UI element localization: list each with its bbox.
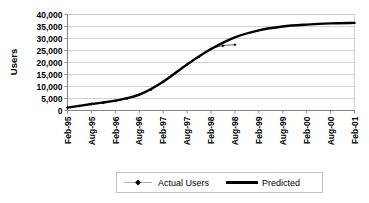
x-tick-label: Feb-97 xyxy=(158,116,168,144)
x-tick-label: Feb-98 xyxy=(206,116,216,144)
legend-label-predicted: Predicted xyxy=(262,178,300,188)
y-tick-label: 30,000 xyxy=(37,34,63,44)
x-tick-label: Feb-96 xyxy=(111,116,121,144)
x-tick-label: Feb-00 xyxy=(302,116,312,144)
y-tick-label: 15,000 xyxy=(37,70,63,80)
x-tick-label: Aug-95 xyxy=(87,116,97,145)
x-tick-label: Aug-99 xyxy=(278,116,288,145)
x-tick-label: Feb-99 xyxy=(254,116,264,144)
x-tick-label: Feb-95 xyxy=(63,116,73,144)
y-tick-label: 0 xyxy=(58,106,63,116)
chart-legend: Actual Users Predicted xyxy=(117,173,323,193)
y-tick-label: 35,000 xyxy=(37,22,63,32)
y-tick-label: 5,000 xyxy=(41,94,63,104)
y-tick-label: 40,000 xyxy=(37,10,63,20)
x-tick-label: Aug-97 xyxy=(182,116,192,145)
x-tick-label: Aug-98 xyxy=(230,116,240,145)
y-tick-label: 20,000 xyxy=(37,58,63,68)
y-tick-label: 10,000 xyxy=(37,82,63,92)
legend-label-actual-users: Actual Users xyxy=(158,178,210,188)
users-growth-line-chart: 05,00010,00015,00020,00025,00030,00035,0… xyxy=(0,0,369,203)
chart-container: 05,00010,00015,00020,00025,00030,00035,0… xyxy=(0,0,369,203)
x-tick-label: Feb-01 xyxy=(350,116,360,144)
y-tick-label: 25,000 xyxy=(37,46,63,56)
y-axis-title: Users xyxy=(8,49,19,75)
x-tick-label: Aug-00 xyxy=(326,116,336,145)
y-axis-tick-labels: 05,00010,00015,00020,00025,00030,00035,0… xyxy=(37,10,63,116)
x-tick-label: Aug-96 xyxy=(134,116,144,145)
